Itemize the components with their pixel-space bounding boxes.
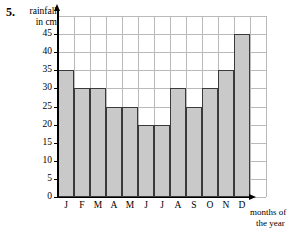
y-axis-arrow-icon xyxy=(54,4,60,11)
x-tick-label: F xyxy=(74,200,90,211)
y-tick-mark xyxy=(54,70,58,71)
bar-april xyxy=(106,107,122,198)
bar-september xyxy=(186,107,202,198)
y-tick-label: 5 xyxy=(30,174,52,184)
gridline-vertical xyxy=(266,16,267,197)
bar-august xyxy=(170,88,186,197)
gridline-horizontal xyxy=(58,16,266,17)
x-tick-label: J xyxy=(154,200,170,211)
y-tick-label: 20 xyxy=(30,120,52,130)
y-axis-title: rainfall in cm xyxy=(19,6,57,28)
x-tick-label: J xyxy=(138,200,154,211)
y-tick-mark xyxy=(54,197,58,198)
bar-december xyxy=(234,34,250,197)
x-tick-label: M xyxy=(90,200,106,211)
x-axis-arrow-icon xyxy=(249,194,256,200)
y-tick-label: 0 xyxy=(30,192,52,202)
y-tick-mark xyxy=(54,52,58,53)
bar-may xyxy=(122,107,138,198)
x-axis-title-line2: the year xyxy=(250,218,299,229)
x-tick-label: A xyxy=(170,200,186,211)
x-tick-label: M xyxy=(122,200,138,211)
worksheet-figure: 5. rainfall in cm months of the year 051… xyxy=(0,0,299,243)
x-axis-line xyxy=(57,197,251,199)
y-tick-mark xyxy=(54,143,58,144)
x-tick-label: S xyxy=(186,200,202,211)
y-tick-mark xyxy=(54,107,58,108)
y-axis-title-line2: in cm xyxy=(19,17,57,28)
y-tick-mark xyxy=(54,161,58,162)
x-tick-label: N xyxy=(218,200,234,211)
y-tick-mark xyxy=(54,179,58,180)
y-axis-title-line1: rainfall xyxy=(19,6,57,17)
x-tick-label: D xyxy=(234,200,250,211)
plot-area xyxy=(58,16,266,197)
question-number: 5. xyxy=(6,5,15,20)
bar-july xyxy=(154,125,170,197)
x-tick-label: J xyxy=(58,200,74,211)
bar-february xyxy=(74,88,90,197)
y-tick-label: 45 xyxy=(30,29,52,39)
y-tick-label: 35 xyxy=(30,65,52,75)
y-tick-mark xyxy=(54,125,58,126)
bar-january xyxy=(58,70,74,197)
x-tick-label: A xyxy=(106,200,122,211)
y-tick-label: 40 xyxy=(30,47,52,57)
y-tick-label: 15 xyxy=(30,138,52,148)
bar-october xyxy=(202,88,218,197)
y-tick-mark xyxy=(54,34,58,35)
bar-june xyxy=(138,125,154,197)
y-tick-mark xyxy=(54,88,58,89)
y-tick-label: 10 xyxy=(30,156,52,166)
x-axis-title-line1: months of xyxy=(250,207,299,218)
bar-march xyxy=(90,88,106,197)
x-axis-title: months of the year xyxy=(250,207,299,229)
x-tick-label: O xyxy=(202,200,218,211)
bar-november xyxy=(218,70,234,197)
y-tick-label: 30 xyxy=(30,83,52,93)
y-axis-line xyxy=(57,10,59,198)
y-tick-label: 25 xyxy=(30,102,52,112)
